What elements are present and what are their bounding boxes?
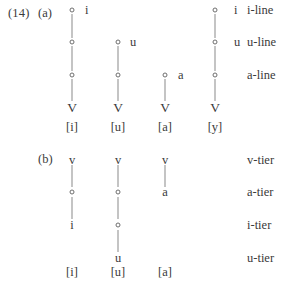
surface-transcription: [a] (158, 121, 172, 134)
example-number: (14) (8, 6, 30, 21)
association-line (72, 46, 73, 71)
tier-name-label: a-tier (247, 186, 273, 199)
tier-symbol: i (70, 219, 73, 232)
root-node-symbol: V (210, 101, 220, 115)
part-label-a: (a) (38, 6, 52, 21)
tier-node (70, 8, 75, 13)
melody-label: u (234, 36, 240, 49)
association-line (118, 46, 119, 71)
association-line (72, 165, 73, 187)
tier-diagram-page: { "example": { "number": "(14)", "parts"… (0, 0, 294, 289)
melody-label: i (234, 4, 237, 17)
tier-node (213, 8, 218, 13)
association-line (215, 14, 216, 38)
melody-label: u (130, 36, 136, 49)
tier-node (116, 223, 121, 228)
tier-symbol: v (115, 154, 121, 167)
melody-label: a (178, 69, 184, 82)
melody-label: i (85, 4, 88, 17)
tier-node (70, 73, 75, 78)
association-line (72, 197, 73, 219)
tier-name-label: i-tier (247, 219, 271, 232)
association-line (118, 230, 119, 252)
tier-symbol: v (162, 154, 168, 167)
surface-transcription: [i] (66, 266, 78, 279)
tier-node (213, 73, 218, 78)
surface-transcription: [u] (111, 266, 126, 279)
tier-node (116, 40, 121, 45)
tier-name-label: a-line (247, 69, 275, 82)
association-line (165, 79, 166, 101)
association-line (165, 165, 166, 187)
association-line (118, 79, 119, 101)
tier-node (163, 73, 168, 78)
part-label-b: (b) (38, 152, 53, 167)
association-line (118, 197, 119, 219)
tier-node (213, 40, 218, 45)
root-node-symbol: V (113, 101, 123, 115)
tier-node (116, 190, 121, 195)
tier-name-label: u-line (247, 36, 276, 49)
association-line (118, 165, 119, 187)
root-node-symbol: V (160, 101, 170, 115)
root-node-symbol: V (67, 101, 77, 115)
surface-transcription: [i] (66, 121, 78, 134)
tier-name-label: i-line (247, 4, 273, 17)
association-line (215, 46, 216, 71)
tier-symbol: v (69, 154, 75, 167)
tier-node (116, 73, 121, 78)
tier-node (70, 40, 75, 45)
tier-symbol: u (115, 252, 121, 265)
surface-transcription: [y] (208, 121, 223, 134)
association-line (215, 79, 216, 101)
tier-symbol: a (162, 186, 168, 199)
tier-name-label: v-tier (247, 154, 274, 167)
surface-transcription: [a] (158, 266, 172, 279)
tier-node (70, 190, 75, 195)
association-line (72, 79, 73, 101)
tier-name-label: u-tier (247, 252, 274, 265)
association-line (72, 14, 73, 38)
surface-transcription: [u] (111, 121, 126, 134)
